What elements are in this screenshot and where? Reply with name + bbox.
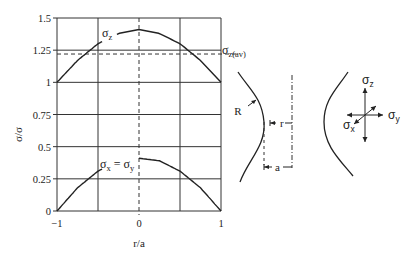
x-tick-label: 1	[218, 218, 223, 229]
y-tick-label: 1	[46, 77, 51, 88]
r-arrowhead	[270, 121, 275, 125]
x-tick-label: −1	[51, 218, 62, 229]
sigma-z-arrow-up-head	[363, 88, 368, 93]
sigma-x-element-label: σx	[343, 118, 355, 134]
y-tick-label: 1.5	[38, 13, 51, 24]
sigma-xy-curve-left	[57, 169, 102, 211]
sigma-z-av-label: σz(av)	[222, 43, 246, 59]
sigma-xy-label: σx = σy	[100, 157, 135, 173]
sigma-y-element-label: σy	[388, 108, 400, 124]
radius-label: R	[234, 105, 242, 117]
y-tick-label: 0.75	[33, 110, 51, 121]
x-axis-label: r/a	[133, 237, 145, 249]
y-tick-label: 0	[46, 206, 51, 217]
sigma-z-element-label: σz	[362, 73, 374, 89]
sigma-z-label: σz	[102, 26, 112, 42]
stress-distribution-chart: 00.250.50.7511.251.5−101r/aσ/σσzσz(av)σx…	[12, 13, 246, 249]
y-axis-label: σ/σ	[12, 127, 24, 142]
sigma-y-arrow-left-head	[347, 113, 352, 118]
notch-profile-curve	[238, 72, 264, 182]
notch-diagram: Rra	[234, 72, 292, 182]
y-tick-label: 1.25	[33, 45, 51, 56]
sigma-y-arrow-right-head	[378, 113, 383, 118]
a-label: a	[275, 161, 280, 173]
sigma-z-curve-left	[57, 42, 102, 83]
figure: 00.250.50.7511.251.5−101r/aσ/σσzσz(av)σx…	[0, 0, 415, 254]
sigma-z-curve-right	[117, 30, 221, 83]
sigma-z-arrow-down-head	[363, 137, 368, 142]
y-tick-label: 0.25	[33, 174, 51, 185]
x-tick-label: 0	[136, 218, 141, 229]
stress-element-diagram: σzσyσx	[324, 72, 400, 176]
y-tick-label: 0.5	[38, 142, 51, 153]
r-label: r	[280, 117, 284, 129]
